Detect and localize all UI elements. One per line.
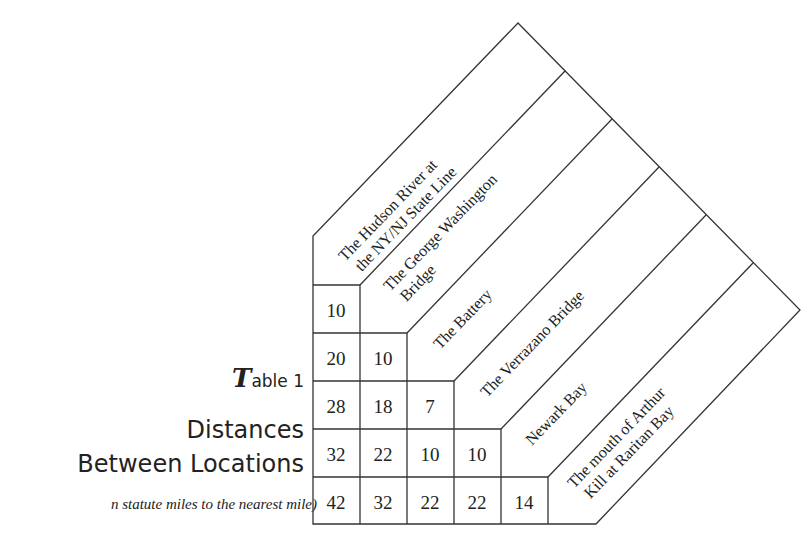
distance-cell: 22 — [421, 492, 440, 513]
location-label-verrazano: The Verrazano Bridge — [477, 287, 588, 401]
distance-cell: 18 — [374, 396, 393, 417]
location-label-battery: The Battery — [430, 286, 496, 353]
distance-cell: 7 — [425, 396, 435, 417]
distance-cell: 10 — [374, 348, 393, 369]
distance-cell: 10 — [468, 444, 487, 465]
distance-cell: 42 — [327, 492, 346, 513]
distance-cell: 32 — [327, 444, 346, 465]
distance-cell: 10 — [327, 300, 346, 321]
distance-triangle-table: 10 20 10 28 18 7 32 22 10 10 42 32 22 22… — [0, 0, 804, 533]
distance-cell: 32 — [374, 492, 393, 513]
distance-cell: 22 — [374, 444, 393, 465]
distance-cell: 20 — [327, 348, 346, 369]
distance-cell: 10 — [421, 444, 440, 465]
location-label-newark-bay: Newark Bay — [522, 378, 591, 448]
distance-cell: 28 — [327, 396, 346, 417]
distance-cell: 22 — [468, 492, 487, 513]
distance-cell: 14 — [515, 492, 535, 513]
